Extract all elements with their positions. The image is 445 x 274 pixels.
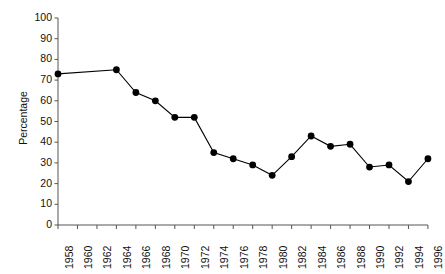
data-point-marker [210, 149, 217, 156]
plot-area [0, 0, 445, 274]
data-point-markers [55, 66, 432, 185]
data-point-marker [132, 89, 139, 96]
data-point-marker [327, 143, 334, 150]
data-point-marker [249, 162, 256, 169]
data-series-line [58, 70, 428, 182]
data-point-marker [386, 162, 393, 169]
axes [58, 18, 428, 225]
data-point-marker [230, 155, 237, 162]
data-point-marker [288, 153, 295, 160]
data-point-marker [405, 178, 412, 185]
data-point-marker [191, 114, 198, 121]
x-axis-ticks [58, 225, 428, 229]
data-point-marker [425, 155, 432, 162]
data-point-marker [347, 141, 354, 148]
data-point-marker [152, 97, 159, 104]
data-point-marker [308, 133, 315, 140]
data-point-marker [171, 114, 178, 121]
data-point-marker [366, 164, 373, 171]
y-axis-ticks [55, 18, 59, 225]
data-point-marker [55, 70, 62, 77]
data-point-marker [113, 66, 120, 73]
data-point-marker [269, 172, 276, 179]
line-chart-figure: Percentage 0102030405060708090100 195819… [0, 0, 445, 274]
